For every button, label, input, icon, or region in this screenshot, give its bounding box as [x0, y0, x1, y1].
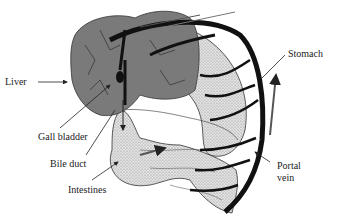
- liver-shape: [71, 11, 199, 115]
- stomach-pointer: [262, 55, 285, 78]
- portal-flow-arrow: [270, 75, 276, 135]
- portal-vein-label-line1: Portal: [277, 160, 301, 171]
- gall-bladder-shape: [116, 71, 124, 83]
- bile-duct-label: Bile duct: [50, 158, 86, 169]
- gall-bladder-label: Gall bladder: [38, 131, 88, 142]
- bile-duct-pointer: [86, 110, 115, 155]
- portal-vein-label-line2: vein: [277, 172, 294, 183]
- portal-circulation-diagram: [0, 0, 337, 219]
- intestines-label: Intestines: [68, 184, 106, 195]
- liver-label: Liver: [5, 76, 27, 87]
- stomach-label: Stomach: [288, 48, 323, 59]
